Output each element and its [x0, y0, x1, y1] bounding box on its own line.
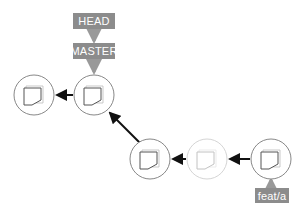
commit-node-faded[interactable] — [187, 139, 227, 179]
feature-branch-label: feat/a — [255, 188, 289, 203]
commit-icon — [84, 86, 103, 105]
commit-icon — [24, 86, 43, 105]
commit-icon — [261, 150, 280, 169]
master-branch-label: MASTER — [73, 43, 115, 59]
commit-node[interactable] — [251, 139, 291, 179]
commit-icon — [197, 150, 216, 169]
parent-arrow — [110, 113, 142, 145]
head-label: HEAD — [73, 13, 115, 29]
commit-graph — [0, 0, 306, 212]
commit-icon — [140, 150, 159, 169]
commit-node[interactable] — [74, 75, 114, 115]
commit-node[interactable] — [130, 139, 170, 179]
commit-node[interactable] — [14, 75, 54, 115]
